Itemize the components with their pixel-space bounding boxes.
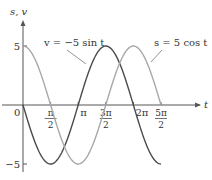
x-axis-label: t — [204, 99, 209, 110]
y-axis-label: s, v — [10, 6, 27, 17]
plot-area: π2π3π22π5π25−5 s, v t 0 v = −5 sin t s =… — [0, 0, 212, 180]
x-tick-label: π — [80, 107, 87, 118]
y-tick-label: −5 — [5, 159, 20, 170]
x-tick-label-den: 2 — [48, 120, 54, 130]
s-annotation: s = 5 cos t — [154, 37, 207, 48]
x-tick-label-den: 2 — [158, 120, 164, 130]
y-tick-label: 5 — [14, 41, 20, 52]
origin-label: 0 — [14, 107, 20, 118]
v-annotation: v = −5 sin t — [43, 37, 104, 48]
x-tick-label-num: 5π — [155, 108, 167, 118]
chart: π2π3π22π5π25−5 s, v t 0 v = −5 sin t s =… — [0, 0, 212, 180]
t-axis-arrow-icon — [195, 103, 201, 108]
x-tick-label-den: 2 — [103, 120, 109, 130]
s-annotation-leader — [151, 50, 162, 62]
y-axis-arrow-icon — [21, 20, 26, 26]
v-annotation-leader — [67, 50, 86, 64]
